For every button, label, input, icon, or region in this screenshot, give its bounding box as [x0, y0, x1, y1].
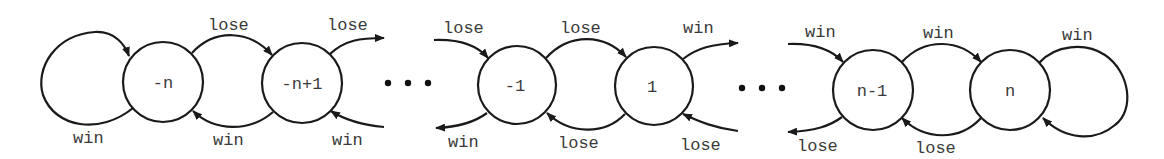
edge-1-out-top [683, 43, 738, 59]
edge-self-loop-n [1039, 47, 1127, 136]
node-n-minus-1: n-1 [833, 50, 913, 130]
edge-labels: win lose win lose win lose win lose lose… [73, 16, 1093, 158]
edges [41, 32, 1127, 136]
node-n: n [970, 50, 1050, 130]
ellipsis-dot [385, 80, 391, 86]
ellipsis-right [739, 85, 785, 91]
edge-1-in-bottom [683, 114, 738, 131]
node-neg-n: -n [123, 42, 203, 122]
ellipsis-left [385, 80, 431, 86]
edge-n-1-to-n [902, 44, 981, 62]
edge-label: lose [680, 136, 721, 155]
edge-label: win [1062, 26, 1093, 45]
edge-neg-1-out-bottom [436, 113, 487, 128]
node-neg-n-plus-1: -n+1 [262, 43, 342, 123]
node-label: -1 [505, 77, 525, 96]
edge-label: win [213, 131, 244, 150]
state-diagram: -n -n+1 -1 1 n-1 n w [0, 0, 1164, 159]
edge-neg-1-in-top [434, 40, 488, 58]
node-label: 1 [647, 78, 657, 97]
edge-neg-n+1-in-bottom [331, 111, 384, 127]
edge-label: win [448, 133, 479, 152]
ellipsis-dot [405, 80, 411, 86]
edge-label: lose [208, 16, 249, 35]
edge-label: win [332, 131, 363, 150]
ellipsis-dot [759, 85, 765, 91]
edge-n-1-out-bottom [788, 117, 842, 132]
edge-neg-n+1-to-neg-n [193, 111, 273, 127]
node-pos-1: 1 [615, 47, 693, 125]
edge-self-loop-neg-n [41, 32, 133, 125]
edge-label: win [923, 24, 954, 43]
ellipsis-dot [739, 85, 745, 91]
edge-label: lose [558, 134, 599, 153]
edge-neg-1-to-1 [546, 39, 626, 58]
edge-label: lose [443, 19, 484, 38]
edge-neg-n-to-neg-n+1 [192, 35, 272, 55]
node-neg-1: -1 [478, 46, 556, 124]
edge-label: win [73, 129, 104, 148]
edge-label: lose [327, 16, 368, 35]
edge-n-1-in-top [788, 44, 843, 62]
node-label: -n [153, 74, 173, 93]
ellipsis-dot [779, 85, 785, 91]
edge-neg-n+1-out-top [330, 38, 384, 54]
node-label: n [1005, 82, 1015, 101]
edge-label: lose [560, 19, 601, 38]
edge-1-to-neg-1 [547, 113, 625, 130]
edge-n-to-n-1 [902, 118, 981, 135]
edge-label: win [805, 23, 836, 42]
edge-label: win [683, 19, 714, 38]
edge-label: lose [797, 137, 838, 156]
node-label: -n+1 [282, 75, 323, 94]
node-label: n-1 [857, 82, 888, 101]
ellipsis-dot [425, 80, 431, 86]
edge-label: lose [915, 139, 956, 158]
